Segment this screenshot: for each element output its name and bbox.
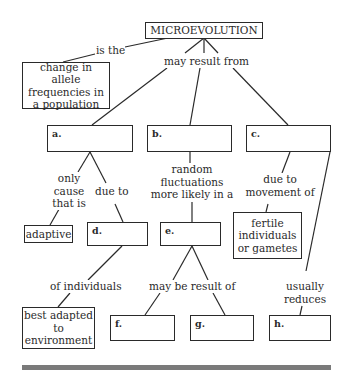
- blank-box-f[interactable]: f.: [110, 315, 175, 341]
- of-individuals-link: of individuals: [50, 280, 122, 293]
- is-the-link: is the: [96, 44, 125, 57]
- blank-box-b[interactable]: b.: [147, 125, 232, 152]
- best-adapted-text: best adapted to environment: [24, 309, 94, 347]
- microevolution-title: MICROEVOLUTION: [150, 24, 257, 37]
- due-to-link: due to: [95, 185, 129, 198]
- blank-label-d: d.: [92, 225, 102, 238]
- blank-label-f: f.: [115, 318, 122, 331]
- blank-box-a[interactable]: a.: [47, 125, 133, 152]
- usually-reduces-link: usually reduces: [283, 280, 327, 305]
- adaptive-box: adaptive: [24, 225, 73, 243]
- blank-label-c: c.: [251, 128, 260, 141]
- definition-box: change in allele frequencies in a popula…: [22, 62, 110, 109]
- microevolution-box: MICROEVOLUTION: [145, 22, 263, 39]
- blank-box-d[interactable]: d.: [87, 222, 148, 246]
- best-adapted-box: best adapted to environment: [22, 307, 95, 349]
- may-be-result-of-link: may be result of: [149, 280, 235, 293]
- adaptive-text: adaptive: [26, 228, 72, 241]
- random-fluctuations-link: random fluctuations more likely in a: [148, 163, 236, 201]
- blank-box-g[interactable]: g.: [190, 315, 254, 341]
- blank-box-h[interactable]: h.: [269, 315, 331, 341]
- blank-label-g: g.: [195, 318, 205, 331]
- blank-label-e: e.: [165, 225, 174, 238]
- may-result-from-link: may result from: [164, 55, 249, 68]
- fertile-text: fertile individuals or gametes: [235, 217, 301, 255]
- bottom-divider-bar: [22, 365, 331, 370]
- blank-label-h: h.: [274, 318, 284, 331]
- fertile-box: fertile individuals or gametes: [233, 212, 302, 259]
- blank-label-b: b.: [152, 128, 162, 141]
- definition-text: change in allele frequencies in a popula…: [24, 61, 108, 111]
- due-to-movement-link: due to movement of: [245, 173, 315, 198]
- blank-box-c[interactable]: c.: [246, 125, 331, 152]
- blank-label-a: a.: [52, 128, 61, 141]
- only-cause-link: only cause that is: [43, 172, 95, 210]
- blank-box-e[interactable]: e.: [160, 222, 221, 246]
